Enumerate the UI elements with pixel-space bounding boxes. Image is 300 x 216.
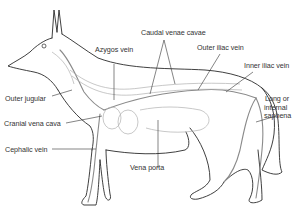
leader-lines	[52, 40, 276, 168]
label-cranial-vena-cava: Cranial vena cava	[4, 120, 61, 128]
label-cephalic-vein: Cephalic vein	[5, 146, 48, 154]
dog-outline	[8, 10, 282, 205]
label-azygos-vein: Azygos vein	[95, 46, 133, 54]
label-inner-iliac-vein: Inner iliac vein	[244, 62, 289, 70]
label-vena-porta: Vena porta	[130, 164, 164, 172]
label-outer-iliac-vein: Outer iliac vein	[197, 44, 244, 52]
organs	[42, 44, 242, 134]
label-caudal-venae-cavae: Caudal venae cavae	[141, 29, 206, 37]
label-long-saphena-1: Long or	[265, 95, 289, 103]
label-outer-jugular: Outer jugular	[5, 95, 46, 103]
label-long-saphena-3: saphena	[264, 112, 291, 120]
